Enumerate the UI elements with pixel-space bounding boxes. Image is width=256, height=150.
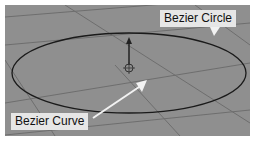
pointer-arrow-circle — [210, 27, 220, 36]
label-bezier-circle: Bezier Circle — [160, 10, 236, 27]
label-bezier-curve: Bezier Curve — [11, 113, 88, 130]
